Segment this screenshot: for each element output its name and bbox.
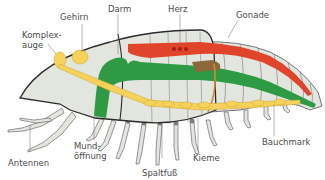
label-herz: Herz bbox=[168, 4, 188, 14]
label-gonade: Gonade bbox=[236, 10, 269, 20]
antennae bbox=[8, 108, 76, 152]
label-komplexauge-1: Komplex- bbox=[22, 30, 62, 40]
heart-ostia bbox=[172, 47, 188, 51]
label-antennen: Antennen bbox=[8, 158, 49, 168]
label-bauchmark: Bauchmark bbox=[262, 137, 310, 147]
label-spaltfuss: Spaltfuß bbox=[142, 168, 177, 178]
crustacean-anatomy-diagram bbox=[0, 0, 325, 180]
label-mundoeffnung-2: öffnung bbox=[74, 151, 107, 161]
label-darm: Darm bbox=[108, 4, 131, 14]
gonad bbox=[192, 60, 220, 72]
label-kieme: Kieme bbox=[193, 153, 220, 163]
label-gehirn: Gehirn bbox=[60, 12, 88, 22]
label-mundoeffnung-1: Mund- bbox=[74, 141, 101, 151]
label-komplexauge-2: auge bbox=[22, 40, 43, 50]
